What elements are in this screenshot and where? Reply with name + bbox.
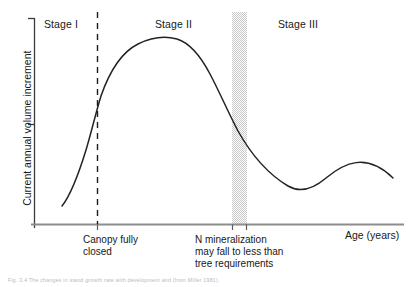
figure-caption: Fig. 3.4 The changes in stand growth rat…: [8, 277, 408, 283]
x-axis-label: Age (years): [345, 229, 399, 241]
growth-curve: [62, 37, 393, 206]
annotation-canopy-fully-closed: Canopy fully closed: [83, 234, 138, 258]
annotation-n-mineralization: N mineralization may fall to less than t…: [195, 234, 283, 269]
figure-container: Stage I Stage II Stage III Current annua…: [0, 0, 414, 287]
stage-label-1: Stage I: [44, 18, 78, 30]
stage-label-2: Stage II: [155, 18, 192, 30]
stage-label-3: Stage III: [278, 18, 318, 30]
n-mineralization-band: [232, 12, 247, 224]
y-axis-label: Current annual volume increment: [21, 33, 33, 223]
